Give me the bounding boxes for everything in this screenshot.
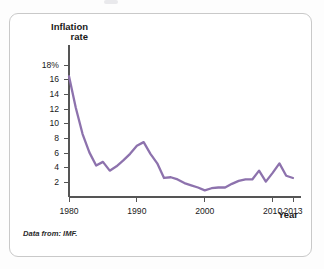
series-line-inflation-rate — [69, 76, 293, 190]
y-tick-label: 4 — [19, 162, 59, 172]
figure-root: Inflation rate Year 24681012141618% 1980… — [0, 0, 324, 269]
y-tick-label: 14 — [19, 89, 59, 99]
x-tick-label: 2010 — [263, 206, 282, 216]
y-tick-label: 10 — [19, 118, 59, 128]
y-tick-label: 18% — [19, 60, 59, 70]
x-tick-label: 1990 — [127, 206, 146, 216]
figure-card: Inflation rate Year 24681012141618% 1980… — [9, 13, 312, 257]
y-axis-title-line2: rate — [22, 32, 88, 42]
chart-series-group — [69, 76, 293, 190]
chart-axes — [69, 45, 301, 197]
y-tick-label: 16 — [19, 74, 59, 84]
x-tick-label: 1980 — [59, 206, 78, 216]
x-tick-label: 2013 — [283, 206, 302, 216]
chart-tick-marks — [64, 65, 293, 202]
y-tick-label: 12 — [19, 104, 59, 114]
y-tick-label: 6 — [19, 148, 59, 158]
source-note: Data from: IMF. — [23, 230, 77, 238]
y-tick-label: 8 — [19, 133, 59, 143]
y-axis-title: Inflation rate — [22, 22, 88, 42]
x-tick-label: 2000 — [195, 206, 214, 216]
y-tick-label: 2 — [19, 177, 59, 187]
scan-artifact — [104, 0, 118, 4]
